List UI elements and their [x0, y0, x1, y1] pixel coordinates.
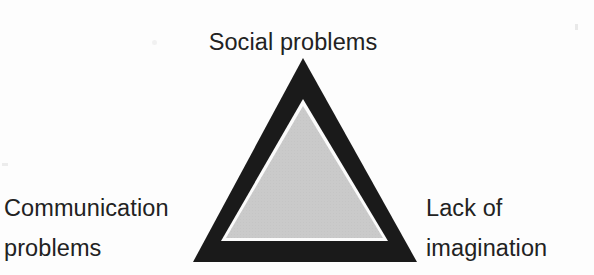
- scan-artifact-speck: [575, 24, 578, 30]
- vertex-label-top-line1: Social problems: [0, 22, 586, 62]
- vertex-label-left-line2: problems: [4, 228, 169, 268]
- scan-artifact-speck: [2, 163, 8, 166]
- vertex-label-right-line1: Lack of: [426, 188, 547, 228]
- vertex-label-left-line1: Communication: [4, 188, 169, 228]
- vertex-label-bottom-right: Lack of imagination: [426, 188, 547, 268]
- vertex-label-top: Social problems: [0, 22, 594, 62]
- diagram-canvas: Social problems Communication problems L…: [0, 0, 594, 275]
- vertex-label-right-line2: imagination: [426, 228, 547, 268]
- scan-artifact-speck: [152, 40, 157, 45]
- vertex-label-bottom-left: Communication problems: [4, 188, 169, 268]
